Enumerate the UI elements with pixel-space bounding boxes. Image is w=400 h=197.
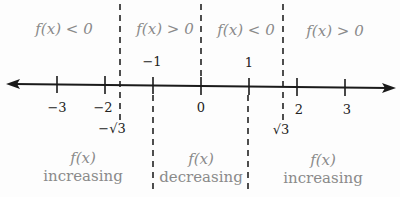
tick-label-0: 0 — [197, 100, 205, 115]
mono-label-region-1-fx: f(x) — [69, 149, 96, 167]
tick-label-neg3: −3 — [47, 100, 66, 115]
tick-label-neg1: −1 — [142, 54, 161, 69]
label-neg-sqrt3: −√3 — [98, 121, 125, 136]
mono-label-region-3-word: increasing — [283, 169, 363, 187]
mono-label-region-3-fx: f(x) — [309, 151, 336, 169]
mono-label-region-2-fx: f(x) — [187, 150, 214, 168]
tick-label-3: 3 — [343, 102, 351, 117]
sign-label-region-4: f(x) > 0 — [305, 22, 364, 40]
tick-label-neg2: −2 — [93, 100, 112, 115]
sign-chart-diagram: −3 −2 0 2 3 −1 1 −√3 √3 f(x) < 0 f(x) > … — [0, 0, 400, 197]
mono-label-region-1-word: increasing — [43, 167, 123, 185]
tick-label-2: 2 — [295, 102, 303, 117]
tick-label-1: 1 — [245, 55, 253, 70]
sign-label-region-1: f(x) < 0 — [34, 20, 93, 38]
sign-label-region-3: f(x) < 0 — [216, 21, 275, 39]
label-sqrt3: √3 — [273, 122, 290, 137]
mono-label-region-2-word: decreasing — [159, 168, 243, 186]
sign-label-region-2: f(x) > 0 — [135, 20, 194, 38]
